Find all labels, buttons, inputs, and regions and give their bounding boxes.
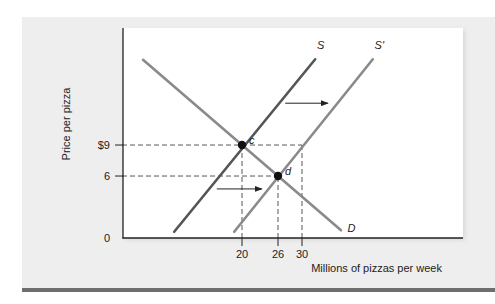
supply-demand-chart: DSS' cd 06$9202630 Millions of pizzas pe… [0, 0, 495, 304]
y-tick-label-0: 0 [104, 232, 110, 244]
y-tick-label-9: $9 [98, 139, 110, 151]
x-tick-label-30: 30 [296, 248, 308, 260]
y-tick-label-6: 6 [104, 170, 110, 182]
curve-label-d: D [348, 222, 356, 234]
x-axis-title: Millions of pizzas per week [311, 262, 442, 274]
equilibrium-point-c [238, 141, 246, 149]
y-axis-title: Price per pizza [60, 87, 72, 161]
x-tick-label-20: 20 [236, 248, 248, 260]
curve-label-s-prime: S' [375, 39, 385, 51]
plot-area [123, 28, 463, 238]
x-tick-label-26: 26 [272, 248, 284, 260]
equilibrium-point-d [274, 172, 282, 180]
point-label-c: c [249, 134, 255, 146]
curve-label-s: S [317, 39, 325, 51]
point-label-d: d [285, 165, 292, 177]
